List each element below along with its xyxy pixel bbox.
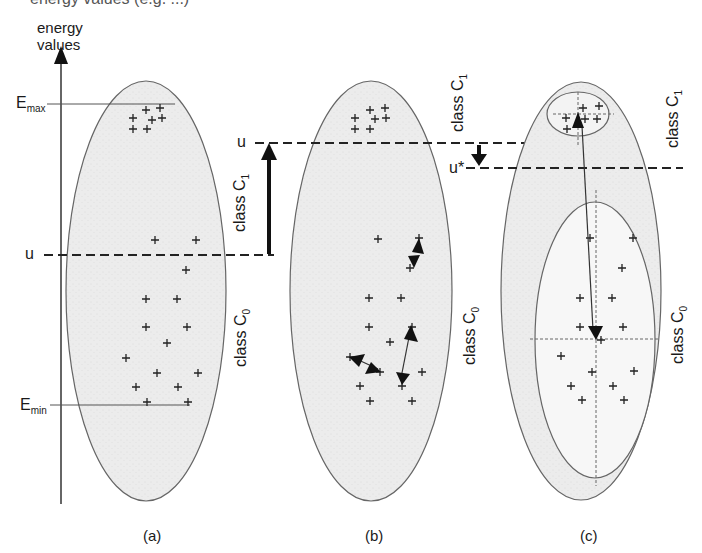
caption-b: (b) — [365, 528, 383, 543]
caption-a: (a) — [143, 528, 161, 543]
ellipse-a — [66, 81, 226, 501]
class-c0-label-c: class C0 — [670, 306, 686, 364]
axis-label-line2: values — [37, 37, 80, 52]
u-label-a: u — [25, 246, 34, 262]
energy-threshold-diagram: energy values (e.g. ...) energy values E… — [0, 0, 702, 553]
cropped-text-fragment: energy values (e.g. ...) — [30, 0, 189, 8]
u-star-label: u* — [449, 160, 464, 176]
class-c1-label-a: class C1 — [232, 174, 248, 232]
diagram-canvas — [0, 0, 702, 553]
emin-label: Emin — [20, 397, 47, 413]
caption-c: (c) — [580, 528, 598, 543]
class-c0-label-a: class C0 — [233, 309, 249, 367]
panel-b — [255, 81, 530, 501]
down-arrow-icon — [471, 154, 487, 166]
up-arrow-icon — [261, 143, 277, 160]
ellipse-c0-refined — [535, 202, 655, 478]
u-label-b: u — [237, 134, 246, 150]
axis-label-line1: energy — [37, 20, 83, 35]
class-c1-label-b: class C1 — [450, 74, 466, 132]
panel-c — [466, 82, 683, 500]
class-c1-label-c: class C1 — [665, 90, 681, 148]
class-c0-label-b: class C0 — [462, 307, 478, 365]
emax-label: Emax — [16, 95, 46, 111]
